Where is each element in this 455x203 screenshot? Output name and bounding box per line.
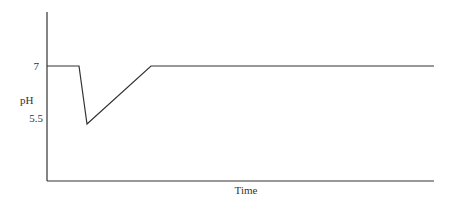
ph-curve <box>47 66 434 124</box>
y-axis-label: pH <box>20 94 34 106</box>
y-tick-5-5: 5.5 <box>29 112 43 124</box>
y-tick-7: 7 <box>34 60 40 72</box>
ph-time-chart: 7 pH 5.5 Time <box>0 0 455 203</box>
x-axis-label: Time <box>235 184 258 196</box>
